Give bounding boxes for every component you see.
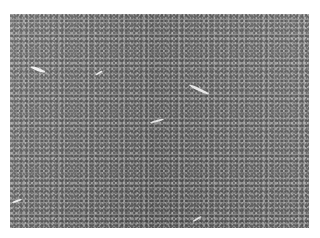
histology-micrograph	[10, 14, 309, 228]
vessel-gap	[188, 83, 209, 95]
vessel-gap	[30, 65, 46, 73]
vessel-gap	[192, 216, 202, 223]
vessel-gap	[12, 198, 22, 203]
vessel-gap	[150, 118, 164, 124]
vessel-gap	[95, 70, 103, 76]
